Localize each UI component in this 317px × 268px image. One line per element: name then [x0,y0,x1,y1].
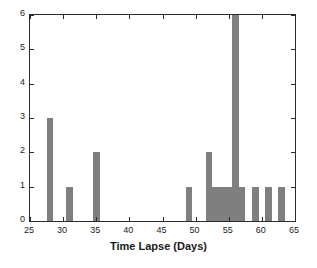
x-tick-mark [295,217,296,221]
x-tick-label: 55 [215,225,241,236]
x-tick-label: 45 [149,225,175,236]
histogram-bar [239,187,246,221]
y-tick-mark [30,15,34,16]
y-tick-mark-right [291,152,295,153]
y-tick-label: 2 [10,146,25,155]
x-tick-mark-top [196,15,197,19]
histogram-bar [265,187,272,221]
y-tick-mark [30,84,34,85]
histogram-bar [252,187,259,221]
x-tick-mark [262,217,263,221]
x-tick-mark-top [229,15,230,19]
x-tick-label: 40 [115,225,141,236]
y-tick-label: 1 [10,181,25,190]
y-tick-mark [30,49,34,50]
x-tick-label: 50 [182,225,208,236]
y-tick-mark-right [291,84,295,85]
y-tick-mark [30,118,34,119]
x-tick-mark [129,217,130,221]
x-tick-mark-top [262,15,263,19]
histogram-bar [212,187,219,221]
plot-area [29,14,296,222]
histogram-bar [186,187,193,221]
x-tick-label: 35 [82,225,108,236]
y-tick-mark-right [291,15,295,16]
x-tick-label: 60 [248,225,274,236]
x-axis-label: Time Lapse (Days) [0,240,317,252]
x-tick-mark-top [163,15,164,19]
y-tick-label: 4 [10,78,25,87]
y-tick-mark-right [291,187,295,188]
x-tick-mark [196,217,197,221]
histogram-bar [47,118,54,221]
x-tick-label: 30 [49,225,75,236]
y-tick-mark-right [291,118,295,119]
y-tick-mark-right [291,221,295,222]
y-tick-mark [30,187,34,188]
histogram-bar [206,152,213,221]
histogram-bar [232,15,239,221]
y-tick-label: 5 [10,43,25,52]
bars-layer [30,15,295,221]
x-tick-mark-top [63,15,64,19]
x-tick-mark-top [129,15,130,19]
histogram-bar [66,187,73,221]
histogram-figure: 253035404550556065 0123456 Time Lapse (D… [0,0,317,268]
x-tick-mark [96,217,97,221]
y-tick-label: 0 [10,215,25,224]
x-tick-mark [229,217,230,221]
y-tick-mark-right [291,49,295,50]
x-tick-label: 25 [16,225,42,236]
x-tick-mark-top [96,15,97,19]
histogram-bar [93,152,100,221]
x-tick-mark [163,217,164,221]
y-tick-mark [30,152,34,153]
histogram-bar [278,187,285,221]
x-tick-mark [63,217,64,221]
histogram-bar [225,187,232,221]
y-tick-mark [30,221,34,222]
y-tick-label: 6 [10,9,25,18]
x-tick-label: 65 [281,225,307,236]
x-tick-mark-top [295,15,296,19]
y-tick-label: 3 [10,112,25,121]
histogram-bar [219,187,226,221]
